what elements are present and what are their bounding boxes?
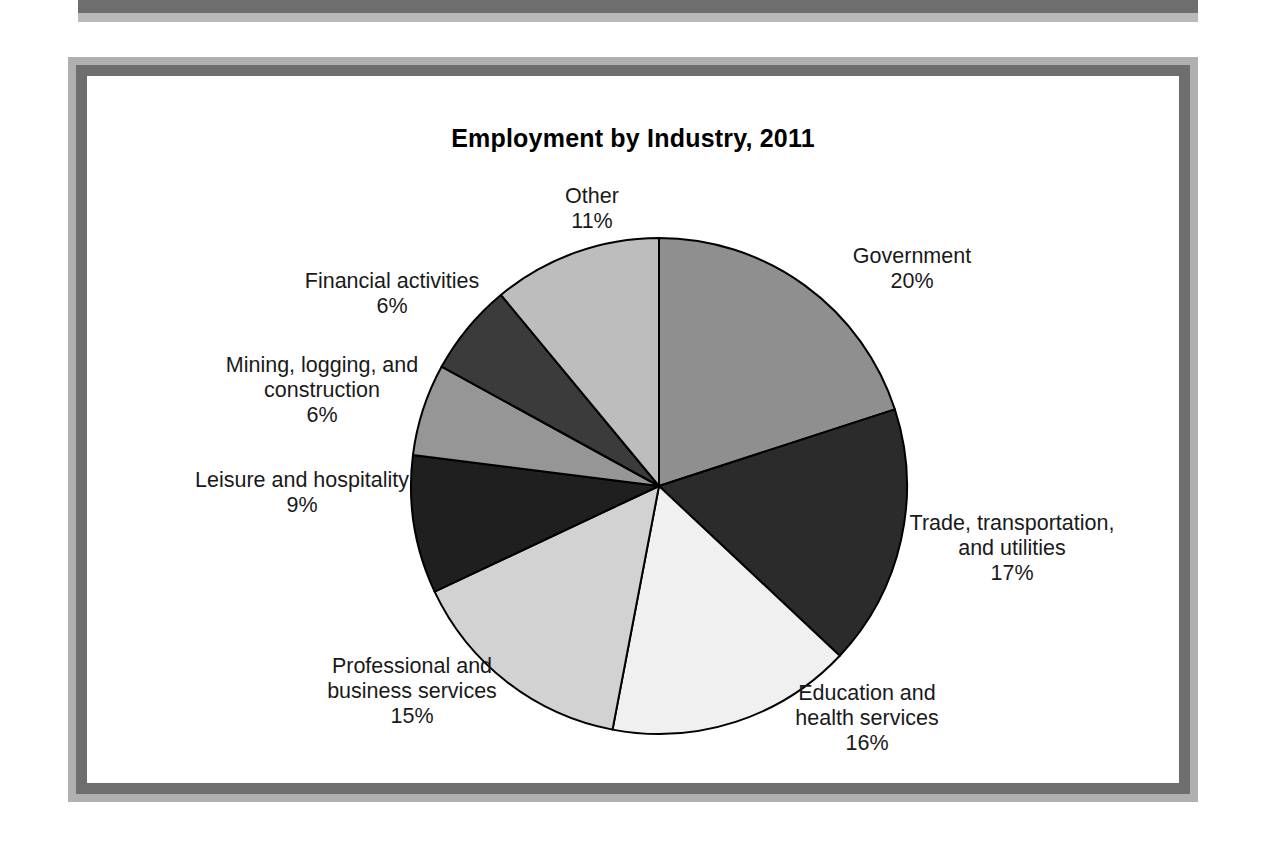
figure-frame-inner: Employment by Industry, 2011 Government … <box>76 65 1190 794</box>
cropped-figure-frame-above <box>78 0 1198 22</box>
pie-label-education: Education and health services 16% <box>742 681 992 756</box>
pie-label-other: Other 11% <box>477 184 707 234</box>
pie-label-trade: Trade, transportation, and utilities 17% <box>877 511 1147 586</box>
pie-graphic <box>87 76 1183 787</box>
frame-band-light <box>78 13 1198 22</box>
pie-chart: Employment by Industry, 2011 Government … <box>87 76 1179 783</box>
pie-label-leisure: Leisure and hospitality 9% <box>172 468 432 518</box>
figure-frame: Employment by Industry, 2011 Government … <box>68 57 1198 802</box>
pie-label-professional: Professional and business services 15% <box>287 654 537 729</box>
pie-label-government: Government 20% <box>797 244 1027 294</box>
pie-label-mining: Mining, logging, and construction 6% <box>197 353 447 428</box>
pie-label-financial: Financial activities 6% <box>262 269 522 319</box>
frame-band-dark <box>78 0 1198 13</box>
